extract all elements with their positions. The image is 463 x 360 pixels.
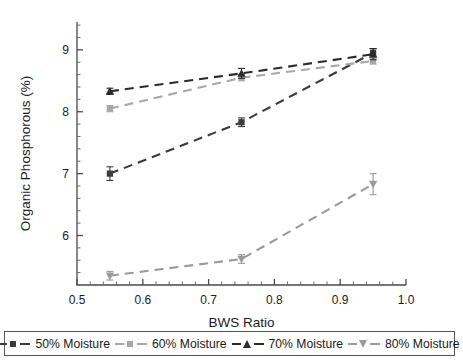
- x-tick-label: 0.6: [134, 293, 151, 307]
- legend-item-2[interactable]: 70% Moisture: [230, 337, 347, 351]
- y-tick-label: 9: [62, 43, 69, 57]
- x-axis-title: BWS Ratio: [208, 315, 274, 330]
- y-axis-title: Organic Phosphorous (%): [18, 76, 33, 231]
- plot-area: 67890.50.60.70.80.91.0BWS RatioOrganic P…: [0, 0, 463, 360]
- data-marker-triangle-down: [237, 256, 245, 263]
- legend-label-2: 70% Moisture: [265, 337, 346, 351]
- x-tick-label: 1.0: [398, 293, 415, 307]
- data-marker-square: [238, 119, 244, 125]
- legend-item-1[interactable]: 60% Moisture: [113, 337, 230, 351]
- data-marker-square: [107, 171, 113, 177]
- legend-item-3[interactable]: 80% Moisture: [346, 337, 463, 351]
- y-tick-label: 8: [62, 105, 69, 119]
- chart-legend: 50% Moisture 60% Moisture 70% Moisture: [4, 331, 455, 356]
- legend-label-0: 50% Moisture: [31, 337, 112, 351]
- legend-label-1: 60% Moisture: [148, 337, 229, 351]
- legend-item-0[interactable]: 50% Moisture: [0, 337, 113, 351]
- x-tick-label: 0.7: [200, 293, 217, 307]
- legend-swatch-triangle-down: [347, 337, 381, 351]
- chart-figure: 67890.50.60.70.80.91.0BWS RatioOrganic P…: [0, 0, 463, 360]
- legend-swatch-square-dark: [0, 337, 31, 351]
- y-tick-label: 6: [62, 229, 69, 243]
- x-tick-label: 0.8: [266, 293, 283, 307]
- legend-label-3: 80% Moisture: [381, 337, 462, 351]
- data-marker-square: [107, 106, 113, 112]
- data-marker-triangle-down: [369, 181, 377, 188]
- x-tick-label: 0.5: [69, 293, 86, 307]
- y-tick-label: 7: [62, 167, 69, 181]
- legend-swatch-square-light: [114, 337, 148, 351]
- x-tick-label: 0.9: [332, 293, 349, 307]
- legend-swatch-triangle-up: [231, 337, 265, 351]
